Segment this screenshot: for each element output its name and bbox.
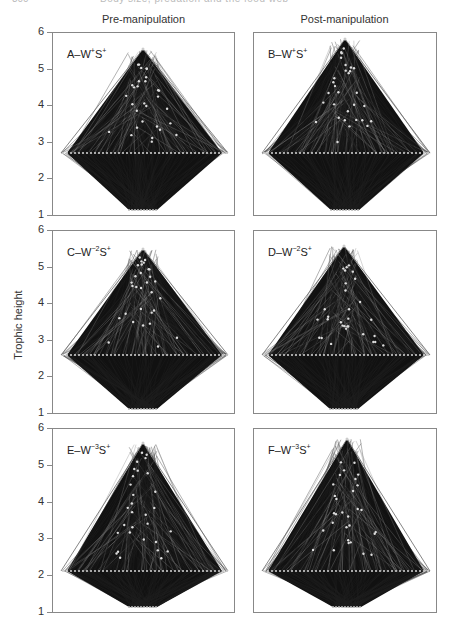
running-title: Body size, predation and the food web — [100, 0, 289, 4]
y-axis-row1: 6 5 4 3 2 1 — [30, 32, 52, 215]
food-web-plot — [254, 231, 437, 414]
running-head: 300 Body size, predation and the food we… — [0, 0, 456, 5]
y-axis-row2: 6 5 4 3 2 1 — [30, 230, 52, 413]
column-title-pre: Pre-manipulation — [52, 13, 235, 25]
panel-b: B–W+S+ — [253, 32, 437, 216]
panel-c: C–W−2S+ — [52, 230, 235, 414]
panel-label: E–W−3S+ — [67, 443, 110, 456]
food-web-plot — [53, 33, 235, 216]
y-axis-row3: 6 5 4 3 2 1 — [30, 428, 52, 612]
page-number: 300 — [12, 0, 29, 4]
food-web-plot — [53, 231, 235, 414]
panel-label: C–W−2S+ — [67, 245, 111, 258]
panel-label: B–W+S+ — [268, 47, 307, 60]
food-web-plot — [254, 33, 437, 216]
panel-f: F–W−3S+ — [253, 428, 437, 613]
panel-e: E–W−3S+ — [52, 428, 235, 613]
column-title-post: Post-manipulation — [253, 13, 436, 25]
y-axis-label: Trophic height — [12, 285, 24, 365]
panel-a: A–W+S+ — [52, 32, 235, 216]
food-web-plot — [53, 429, 235, 613]
panel-label: A–W+S+ — [67, 47, 106, 60]
panel-label: D–W−2S+ — [268, 245, 312, 258]
food-web-plot — [254, 429, 437, 613]
panel-d: D–W−2S+ — [253, 230, 437, 414]
panel-label: F–W−3S+ — [268, 443, 311, 456]
